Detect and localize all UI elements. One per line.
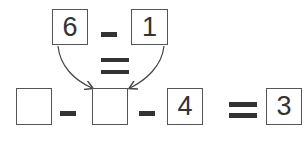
- middle-equals-bottom-bar: [101, 70, 129, 74]
- result-box: 3: [266, 88, 302, 125]
- top-left-value: 6: [62, 14, 77, 41]
- middle-equals-top-bar: [101, 58, 129, 62]
- bottom-minus-sign-1: [60, 111, 76, 116]
- arrow-left-icon: [58, 46, 92, 88]
- answer-box-2[interactable]: [92, 88, 128, 125]
- result-value: 3: [276, 93, 291, 120]
- box-4-value: 4: [177, 93, 192, 120]
- answer-box-1[interactable]: [16, 88, 52, 125]
- box-4: 4: [167, 88, 203, 125]
- bottom-minus-sign-2: [139, 111, 155, 116]
- arrow-right-icon: [130, 46, 164, 88]
- bottom-equals-bottom-bar: [229, 113, 257, 118]
- top-left-box: 6: [52, 9, 88, 45]
- top-right-box: 1: [131, 9, 168, 45]
- bottom-equals-top-bar: [229, 102, 257, 107]
- subtraction-diagram: 6 1 4 3: [0, 0, 304, 141]
- top-right-value: 1: [142, 14, 157, 41]
- top-minus-sign: [101, 32, 117, 37]
